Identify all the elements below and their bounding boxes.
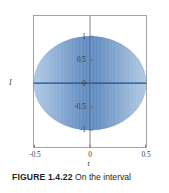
figure-caption: FIGURE 1.4.22 On the interval [12,173,164,183]
y-tick-label-minus-0-5: -0.5 [64,103,86,110]
x-tick-label-minus-0-5: -0.5 [22,151,48,158]
y-tick-label-minus-1: -1 [66,126,86,133]
figure-container: 1 0.5 0 -0.5 -1 I -0.5 0 0.5 t FIGURE 1.… [0,0,169,193]
y-tick-label-1: 1 [68,33,86,40]
x-axis-title: t [88,160,90,168]
figure-caption-label: FIGURE 1.4.22 [12,172,73,182]
figure-caption-body: On the interval [75,172,131,182]
y-axis-title: I [9,79,12,87]
y-tick-label-0-5: 0.5 [66,56,86,63]
x-tick-label-0-5: 0.5 [134,151,158,158]
plot-area: 1 0.5 0 -0.5 -1 I -0.5 0 0.5 t [0,0,169,170]
y-tick-label-0: 0 [68,80,86,87]
x-tick-label-0: 0 [78,151,102,158]
